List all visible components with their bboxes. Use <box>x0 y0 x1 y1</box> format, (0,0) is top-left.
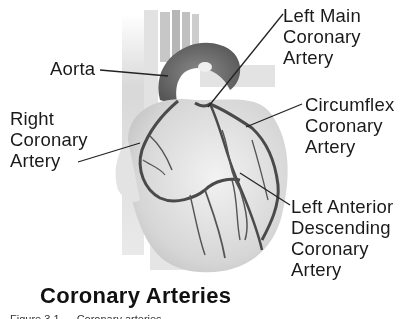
label-line: Left Anterior <box>291 196 393 217</box>
label-aorta: Aorta <box>50 58 95 79</box>
label-line: Coronary <box>291 238 393 259</box>
label-line: Aorta <box>50 58 95 79</box>
label-left-main-coronary-artery: Left Main Coronary Artery <box>283 5 361 68</box>
coronary-arteries-diagram: Aorta Right Coronary Artery Left Main Co… <box>0 0 417 319</box>
label-line: Coronary <box>305 115 394 136</box>
label-line: Descending <box>291 217 393 238</box>
label-right-coronary-artery: Right Coronary Artery <box>10 108 88 171</box>
label-line: Artery <box>283 47 361 68</box>
label-line: Circumflex <box>305 94 394 115</box>
label-circumflex-coronary-artery: Circumflex Coronary Artery <box>305 94 394 157</box>
label-line: Artery <box>10 150 88 171</box>
figure-caption: Figure 3.1 — Coronary arteries <box>10 313 162 319</box>
label-line: Coronary <box>283 26 361 47</box>
diagram-title: Coronary Arteries <box>40 283 231 309</box>
label-line: Artery <box>305 136 394 157</box>
label-left-anterior-descending-coronary-artery: Left Anterior Descending Coronary Artery <box>291 196 393 280</box>
label-line: Right <box>10 108 88 129</box>
label-line: Artery <box>291 259 393 280</box>
label-line: Coronary <box>10 129 88 150</box>
label-line: Left Main <box>283 5 361 26</box>
